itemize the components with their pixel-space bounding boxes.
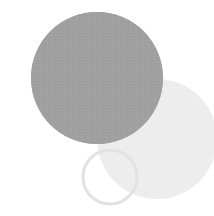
main-circle-group bbox=[31, 12, 163, 144]
overlapping-circles-figure bbox=[0, 0, 214, 216]
main-circle-texture-overlay bbox=[31, 12, 163, 144]
graphic-canvas bbox=[0, 0, 214, 216]
